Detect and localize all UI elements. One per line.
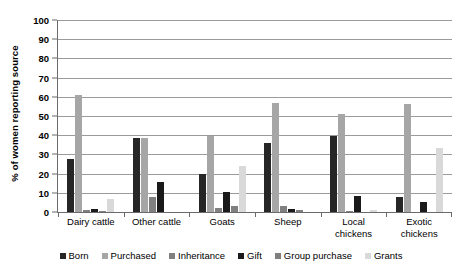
legend-item[interactable]: Purchased xyxy=(102,250,156,261)
bar-group xyxy=(386,20,452,212)
y-axis-tick-label: 10 xyxy=(38,187,49,198)
bar xyxy=(133,138,140,212)
bar xyxy=(141,138,148,212)
legend-item[interactable]: Group purchase xyxy=(275,250,352,261)
bar xyxy=(338,114,345,212)
x-axis-category-label: Other cattle xyxy=(124,216,190,239)
legend-swatch-icon xyxy=(169,253,175,259)
bar xyxy=(149,197,156,212)
legend-label: Gift xyxy=(247,250,262,261)
legend-label: Born xyxy=(69,250,89,261)
bar xyxy=(157,182,164,212)
legend-swatch-icon xyxy=(102,253,108,259)
x-axis-category-label: Exotic chickens xyxy=(386,216,452,239)
bar xyxy=(215,208,222,212)
y-axis-tick-labels: 1009080706050403020100 xyxy=(0,20,57,212)
bar xyxy=(436,148,443,212)
legend-swatch-icon xyxy=(60,253,66,259)
y-axis-tick-label: 0 xyxy=(44,207,49,218)
bar xyxy=(207,136,214,212)
y-axis-tick-label: 100 xyxy=(33,15,49,26)
bar xyxy=(99,211,106,212)
legend-swatch-icon xyxy=(238,253,244,259)
bar-group xyxy=(58,20,124,212)
bar-group xyxy=(189,20,255,212)
bar xyxy=(346,211,353,212)
legend-item[interactable]: Gift xyxy=(238,250,262,261)
bar xyxy=(330,136,337,212)
legend-swatch-icon xyxy=(275,253,281,259)
y-axis-tick-label: 80 xyxy=(38,53,49,64)
bar xyxy=(223,192,230,212)
x-axis-category-labels: Dairy cattleOther cattleGoatsSheepLocal … xyxy=(58,216,452,239)
bar xyxy=(239,166,246,212)
bar xyxy=(370,210,377,212)
legend-item[interactable]: Grants xyxy=(365,250,403,261)
bar xyxy=(272,103,279,212)
y-axis-tick-label: 20 xyxy=(38,168,49,179)
y-axis-tick-label: 60 xyxy=(38,91,49,102)
bar-group xyxy=(321,20,387,212)
bar xyxy=(396,197,403,212)
bar xyxy=(420,202,427,212)
legend-item[interactable]: Inheritance xyxy=(169,250,225,261)
plot-area xyxy=(58,20,452,212)
bar xyxy=(354,196,361,212)
bar xyxy=(91,209,98,212)
y-axis-tick-label: 90 xyxy=(38,34,49,45)
bar-group xyxy=(124,20,190,212)
bar-chart: % of women reporting source 100908070605… xyxy=(0,0,462,279)
legend-label: Grants xyxy=(374,250,403,261)
legend-swatch-icon xyxy=(365,253,371,259)
bar xyxy=(288,209,295,212)
bar xyxy=(75,95,82,212)
bar xyxy=(280,206,287,212)
legend-label: Purchased xyxy=(111,250,156,261)
bar xyxy=(231,206,238,212)
y-axis-tick-label: 30 xyxy=(38,149,49,160)
x-axis-category-label: Local chickens xyxy=(321,216,387,239)
bar-group xyxy=(255,20,321,212)
bar xyxy=(296,210,303,212)
bar xyxy=(83,210,90,212)
bar-groups xyxy=(58,20,452,212)
x-axis-category-label: Sheep xyxy=(255,216,321,239)
bar xyxy=(107,199,114,212)
y-axis-tick-label: 50 xyxy=(38,111,49,122)
legend-label: Inheritance xyxy=(178,250,225,261)
x-axis-category-label: Dairy cattle xyxy=(58,216,124,239)
chart-legend: BornPurchasedInheritanceGiftGroup purcha… xyxy=(0,250,462,261)
legend-label: Group purchase xyxy=(284,250,352,261)
bar xyxy=(264,143,271,212)
x-axis-category-label: Goats xyxy=(189,216,255,239)
bar xyxy=(404,104,411,212)
legend-item[interactable]: Born xyxy=(60,250,89,261)
bar xyxy=(199,174,206,212)
y-axis-tick-label: 40 xyxy=(38,130,49,141)
bar xyxy=(67,159,74,212)
y-axis-tick-label: 70 xyxy=(38,72,49,83)
